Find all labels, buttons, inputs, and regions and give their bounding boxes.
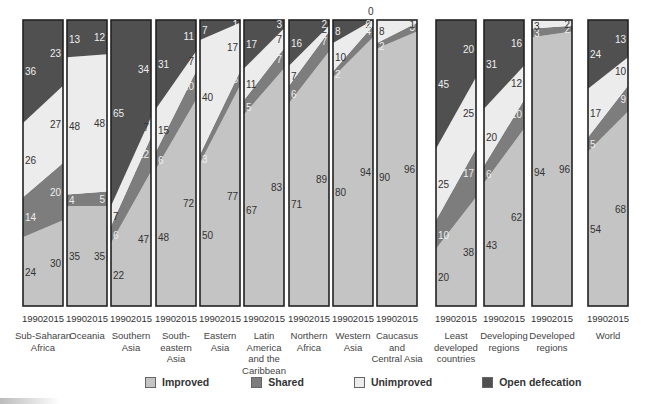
value-label-2015: 7 — [276, 54, 282, 65]
year-label: 1990 — [155, 313, 176, 324]
decorative-bar — [0, 398, 60, 404]
region-label: Northern — [291, 330, 328, 341]
value-label-2015: 17 — [227, 42, 239, 53]
value-label-1990: 50 — [202, 230, 214, 241]
value-label-2015: 27 — [50, 119, 62, 130]
value-label-2015: 34 — [138, 64, 150, 75]
region-label: regions — [488, 342, 519, 353]
legend-label: Open defecation — [499, 376, 581, 388]
region-label: Developed — [529, 330, 574, 341]
region-label: Southern — [112, 330, 151, 341]
value-label-2015: 23 — [50, 48, 62, 59]
value-label-1990: 36 — [25, 66, 37, 77]
legend: Improved Shared Unimproved Open defecati… — [145, 376, 619, 388]
year-label: 2015 — [456, 313, 477, 324]
value-label-2015: 5 — [99, 194, 105, 205]
panel-developed-regions: 9496323219902015Developedregions — [529, 19, 574, 353]
panel-caucasus-and-central-asia: 9096238119902015CaucasusandCentral Asia — [371, 19, 423, 364]
year-label: 2015 — [504, 313, 525, 324]
value-label-2015: 47 — [138, 234, 150, 245]
value-label-1990: 67 — [246, 205, 258, 216]
value-label-1990: 4 — [69, 195, 75, 206]
value-label-1990: 80 — [335, 187, 347, 198]
panel-world: 5468591710241319902015World — [587, 20, 629, 341]
value-label-1990: 94 — [534, 167, 546, 178]
year-label: 1990 — [483, 313, 504, 324]
panel-western-asia: 8094241028019902015WesternAsia — [332, 19, 374, 353]
region-label: Asia — [167, 353, 186, 364]
value-label-1990: 2 — [335, 69, 341, 80]
legend-item-improved: Improved — [145, 376, 209, 388]
legend-item-shared: Shared — [251, 376, 304, 388]
value-label-1990: 90 — [379, 172, 391, 183]
value-label-2015: 11 — [184, 31, 195, 42]
value-label-1990: 10 — [335, 52, 347, 63]
value-label-1990: 6 — [113, 230, 119, 241]
panel-developing-regions: 43626102012311619902015Developingregions — [480, 20, 528, 353]
year-label: 1990 — [531, 313, 552, 324]
region-label: Africa — [297, 342, 322, 353]
region-label: Caucasus — [376, 330, 418, 341]
panel-latin-america-and-the-caribbean: 67835711717319902015LatinAmericaand theC… — [242, 19, 286, 375]
panel-eastern-asia: 50773540177119902015EasternAsia — [199, 19, 241, 353]
value-label-2015: 7 — [143, 122, 149, 133]
panel-southern-asia: 224761277653419902015SouthernAsia — [110, 20, 152, 353]
value-label-1990: 20 — [486, 132, 498, 143]
sanitation-chart: 243014202627362319902015Sub-SaharanAfric… — [0, 0, 651, 404]
panel-northern-africa: 7189677216219902015NorthernAfrica — [288, 19, 330, 353]
unimproved-swatch-icon — [354, 377, 365, 388]
year-label: 2015 — [176, 313, 197, 324]
value-label-1990: 8 — [335, 26, 341, 37]
value-label-2015: 7 — [276, 34, 282, 45]
value-label-1990: 11 — [246, 79, 257, 90]
region-label: Developing — [480, 330, 528, 341]
year-label: 1990 — [22, 313, 43, 324]
value-label-2015: 72 — [183, 198, 195, 209]
legend-item-unimproved: Unimproved — [354, 376, 432, 388]
value-label-1990: 54 — [590, 224, 602, 235]
value-label-2015: 20 — [463, 44, 475, 55]
value-label-1990: 15 — [158, 125, 170, 136]
year-label: 1990 — [376, 313, 397, 324]
value-label-2015: 17 — [463, 168, 475, 179]
legend-label: Improved — [162, 376, 209, 388]
value-label-1990: 5 — [590, 139, 596, 150]
value-label-2015: 10 — [615, 66, 627, 77]
region-label: countries — [437, 353, 476, 364]
region-label: Central Asia — [371, 353, 423, 364]
value-label-1990: 7 — [291, 71, 297, 82]
value-label-1990: 45 — [438, 79, 450, 90]
region-label: Sub-Saharan — [15, 330, 71, 341]
value-label-2015: 10 — [511, 109, 523, 120]
value-label-1990: 20 — [438, 272, 450, 283]
value-label-2015: 77 — [227, 191, 239, 202]
year-label: 1990 — [332, 313, 353, 324]
value-label-2015: 48 — [94, 118, 106, 129]
year-label: 1990 — [288, 313, 309, 324]
value-label-2015: 12 — [94, 32, 106, 43]
value-label-2015: 94 — [360, 167, 372, 178]
year-label: 2015 — [220, 313, 241, 324]
year-label: 2015 — [608, 313, 629, 324]
region-label: Eastern — [204, 330, 237, 341]
legend-label: Unimproved — [371, 376, 432, 388]
region-label: and the — [248, 353, 280, 364]
value-label-1990: 14 — [25, 212, 37, 223]
value-label-1990: 17 — [246, 39, 258, 50]
value-label-1990: 48 — [69, 121, 81, 132]
region-label: Caribbean — [242, 365, 286, 376]
value-label-1990: 16 — [291, 38, 303, 49]
value-label-1990: 17 — [590, 108, 602, 119]
panel-south-eastern-asia: 4872610157311119902015South-easternAsia — [155, 20, 197, 364]
value-label-1990: 6 — [291, 89, 297, 100]
value-label-open-2015: 0 — [368, 6, 374, 17]
year-label: 1990 — [199, 313, 220, 324]
value-label-2015: 7 — [321, 36, 327, 47]
value-label-2015: 12 — [138, 149, 150, 160]
value-label-2015: 1 — [232, 19, 238, 30]
region-label: developed — [434, 342, 478, 353]
panel-oceania: 3535454848131219902015Oceania — [66, 20, 108, 341]
value-label-1990: 24 — [25, 267, 37, 278]
year-label: 1990 — [435, 313, 456, 324]
shared-swatch-icon — [251, 377, 262, 388]
